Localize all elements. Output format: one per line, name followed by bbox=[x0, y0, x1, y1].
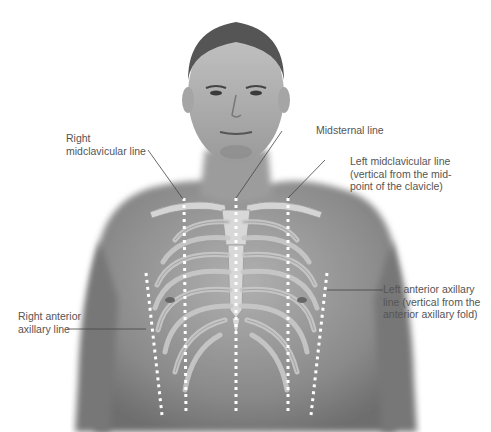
left-nipple bbox=[297, 297, 307, 303]
label-right-anterior-axillary-line: Right anterior axillary line bbox=[18, 310, 81, 335]
label-left-midclavicular-line: Left midclavicular line (vertical from t… bbox=[350, 155, 452, 193]
right-nipple bbox=[165, 297, 175, 303]
head bbox=[182, 22, 290, 163]
label-left-anterior-axillary-line: Left anterior axillary line (vertical fr… bbox=[383, 283, 480, 321]
label-right-midclavicular-line: Right midclavicular line bbox=[66, 132, 146, 157]
chest-figure bbox=[0, 0, 491, 432]
label-midsternal-line: Midsternal line bbox=[316, 124, 384, 137]
